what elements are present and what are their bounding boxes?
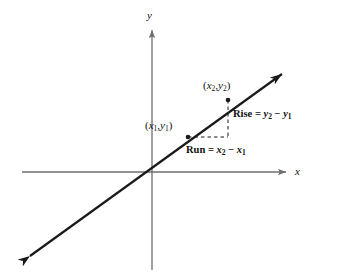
- x-axis-label: x: [295, 166, 300, 177]
- rise-equals: =: [255, 108, 261, 119]
- p1-close-paren: ): [169, 119, 173, 131]
- run-term2-subscript: 1: [242, 148, 246, 157]
- y-axis-label: y: [147, 10, 152, 21]
- p1-x-var: x: [149, 119, 154, 131]
- p1-x-subscript: 1: [154, 124, 158, 133]
- p2-y-subscript: 2: [223, 84, 227, 93]
- point-1-label: (x1,y1): [145, 120, 172, 131]
- rise-minus: −: [275, 108, 281, 119]
- slope-diagram-figure: y x (x2,y2) (x1,y1) Rise = y2 − y1 Run =…: [0, 0, 340, 277]
- rise-annotation: Rise = y2 − y1: [233, 109, 292, 120]
- rise-term1-subscript: 2: [268, 112, 272, 121]
- point-1-marker: [186, 135, 191, 140]
- rise-word: Rise: [233, 108, 252, 119]
- p2-x-subscript: 2: [212, 84, 216, 93]
- p2-x-var: x: [207, 79, 212, 91]
- point-2-label: (x2,y2): [203, 80, 230, 91]
- diagram-canvas: [0, 0, 340, 277]
- p2-close-paren: ): [227, 79, 231, 91]
- run-term1: x: [217, 144, 222, 155]
- run-word: Run: [186, 144, 205, 155]
- run-annotation: Run = x2 − x1: [186, 145, 246, 156]
- rise-term2-subscript: 1: [288, 112, 292, 121]
- p1-y-subscript: 1: [165, 124, 169, 133]
- run-equals: =: [208, 144, 214, 155]
- run-term1-subscript: 2: [222, 148, 226, 157]
- slope-line: [30, 74, 282, 256]
- point-2-marker: [226, 98, 231, 103]
- run-minus: −: [228, 144, 234, 155]
